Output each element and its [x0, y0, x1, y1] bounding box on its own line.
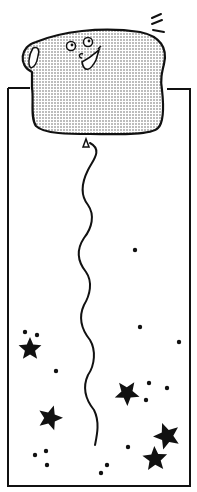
dot-icon — [99, 471, 103, 475]
balloon-knot-icon — [83, 139, 89, 147]
dots — [23, 248, 181, 475]
dot-icon — [33, 453, 37, 457]
star-icon — [153, 423, 179, 450]
dot-icon — [35, 333, 39, 337]
star-icon — [39, 406, 63, 431]
dot-icon — [44, 449, 48, 453]
bread-balloon — [23, 30, 165, 135]
right-eye-icon — [84, 38, 93, 47]
stars — [19, 337, 179, 470]
dot-icon — [147, 381, 151, 385]
dot-icon — [126, 445, 130, 449]
dot-icon — [138, 325, 142, 329]
dot-icon — [45, 463, 49, 467]
left-eye-icon — [67, 42, 76, 51]
star-icon — [142, 446, 167, 470]
dot-icon — [133, 248, 137, 252]
motion-lines-icon — [152, 14, 164, 32]
dot-icon — [23, 330, 27, 334]
star-icon — [19, 337, 42, 359]
star-icon — [115, 382, 140, 406]
dot-icon — [54, 369, 58, 373]
dot-icon — [177, 340, 181, 344]
toast-balloon-illustration — [0, 0, 197, 492]
dot-icon — [105, 463, 109, 467]
dot-icon — [144, 398, 148, 402]
dot-icon — [165, 386, 169, 390]
balloon-string — [79, 143, 98, 445]
